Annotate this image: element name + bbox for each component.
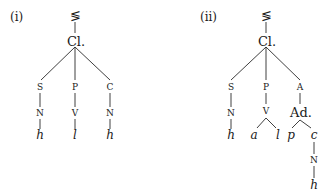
leaf-l: l	[276, 129, 280, 141]
leaf-h: h	[227, 129, 235, 141]
node-s: S	[228, 83, 234, 92]
node-n: N	[106, 109, 114, 118]
root-node: Cl.	[67, 35, 85, 48]
leaf-p: p	[287, 129, 295, 141]
node-v: V	[72, 109, 79, 118]
node-v: V	[263, 107, 270, 116]
sigma-symbol: ≶	[70, 9, 81, 22]
node-p: P	[72, 83, 78, 92]
node-c: C	[107, 83, 114, 92]
node-s: S	[37, 83, 43, 92]
sigma-symbol: ≶	[261, 9, 272, 22]
tree-label: (ii)	[200, 11, 217, 23]
node-a: A	[297, 83, 304, 92]
tree-label: (i)	[10, 11, 23, 23]
leaf-a: a	[250, 129, 257, 141]
node-ad: Ad.	[290, 106, 312, 119]
leaf-h: h	[36, 129, 44, 141]
leaf-h: h	[310, 179, 318, 191]
root-node: Cl.	[258, 35, 276, 48]
node-n: N	[36, 109, 44, 118]
leaf-h: h	[106, 129, 114, 141]
node-n: N	[227, 109, 235, 118]
leaf-l: l	[73, 129, 77, 141]
node-p: P	[263, 83, 269, 92]
tree-edges	[0, 0, 320, 193]
leaf-c: c	[311, 129, 318, 141]
node-n: N	[310, 156, 318, 165]
